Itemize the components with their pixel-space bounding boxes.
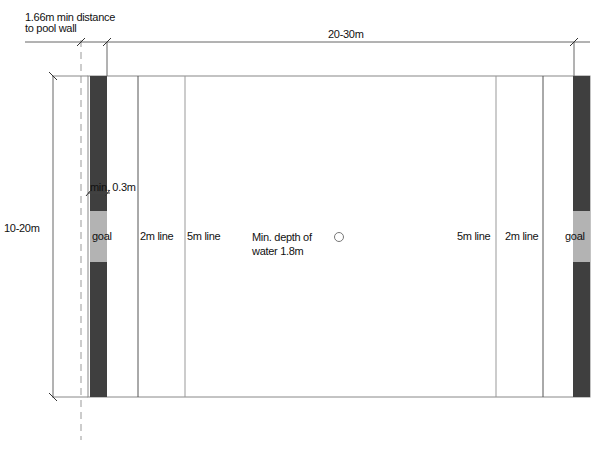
left-goal-label: goal: [92, 230, 112, 242]
wall-distance-line2: to pool wall: [25, 23, 115, 34]
wall-distance-label: 1.66m min distance to pool wall: [25, 12, 115, 34]
center-circle-icon: [335, 233, 344, 242]
depth-line1: Min. depth of: [252, 230, 312, 244]
width-label: 10-20m: [4, 222, 40, 234]
left-5m-label: 5m line: [187, 230, 220, 242]
right-5m-label: 5m line: [457, 230, 490, 242]
right-goal-label: goal: [565, 230, 585, 242]
goal-line-width-label: min. 0.3m: [90, 181, 136, 193]
left-2m-label: 2m line: [140, 230, 173, 242]
pool-diagram: [0, 0, 606, 452]
depth-label: Min. depth of water 1.8m: [252, 230, 312, 258]
depth-line2: water 1.8m: [252, 244, 312, 258]
right-2m-label: 2m line: [505, 230, 538, 242]
length-label: 20-30m: [328, 28, 364, 40]
